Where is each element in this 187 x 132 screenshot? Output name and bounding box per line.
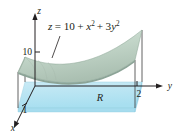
z-axis-label: z xyxy=(36,5,41,16)
equation-label: z=10+x2+3y2 xyxy=(47,20,120,32)
figure-container: z=10+x2+3y2 z 10 y 2 x 1 R xyxy=(0,0,187,132)
equation-term-y-exponent: 2 xyxy=(116,20,120,28)
x-axis-label: x xyxy=(10,122,16,132)
equation-text: z=10+x2+3y2 xyxy=(47,20,120,32)
y-tick-label-2: 2 xyxy=(137,88,142,99)
equation-equals: = xyxy=(55,20,61,32)
x-tick-label-1: 1 xyxy=(23,104,28,115)
equation-term-x-exponent: 2 xyxy=(91,20,95,28)
z-tick-label-10: 10 xyxy=(22,46,32,57)
equation-constant: 10 xyxy=(64,20,76,32)
equation-plus-2: + xyxy=(97,20,103,32)
region-R-front-edge xyxy=(18,108,135,112)
calculus-surface-figure: z=10+x2+3y2 z 10 y 2 x 1 R xyxy=(0,0,187,132)
equation-plus-1: + xyxy=(77,20,83,32)
region-R-label: R xyxy=(96,92,104,103)
y-axis-label: y xyxy=(167,80,173,91)
equation-lhs: z xyxy=(47,20,53,32)
